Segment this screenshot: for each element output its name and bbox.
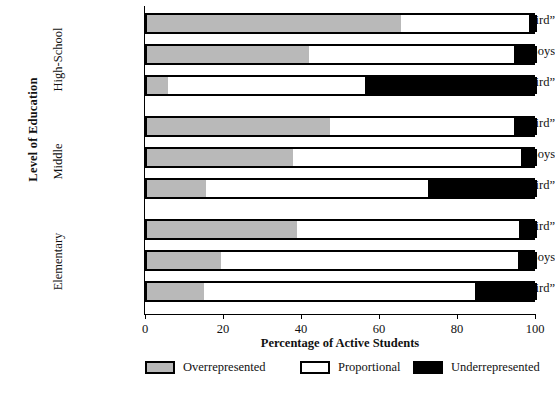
table-row xyxy=(145,116,535,137)
bar-segment-prop xyxy=(309,46,514,63)
bar-segment-over xyxy=(147,283,204,300)
x-tick-100 xyxy=(535,314,536,319)
legend-swatch-proportional-icon xyxy=(300,361,330,374)
bar-segment-under xyxy=(514,46,537,63)
x-tick-80 xyxy=(457,314,458,319)
bar-segment-over xyxy=(147,46,309,63)
bar-segment-over xyxy=(147,77,168,94)
y-axis-title: Level of Education xyxy=(26,35,41,225)
plot-area: 0 20 40 60 80 100 xyxy=(145,6,535,314)
table-row xyxy=(145,281,535,302)
bar-segment-over xyxy=(147,180,206,197)
bar-segment-prop xyxy=(168,77,365,94)
bar-segment-over xyxy=(147,149,293,166)
legend-swatch-overrepresented-icon xyxy=(145,361,175,374)
bar-segment-prop xyxy=(330,118,513,135)
group-label-elementary: Elementary xyxy=(51,214,66,309)
table-row xyxy=(145,44,535,65)
bar-segment-prop xyxy=(401,15,530,32)
legend-label-proportional: Proportional xyxy=(338,360,401,375)
x-tick-label-100: 100 xyxy=(515,322,555,337)
x-tick-label-60: 60 xyxy=(359,322,399,337)
x-tick-label-0: 0 xyxy=(125,322,165,337)
legend-item-overrepresented: Overrepresented xyxy=(145,360,266,375)
bar-segment-prop xyxy=(204,283,475,300)
bar-segment-under xyxy=(428,180,537,197)
bar-segment-prop xyxy=(293,149,521,166)
x-tick-0 xyxy=(145,314,146,319)
x-tick-label-40: 40 xyxy=(281,322,321,337)
bar-segment-over xyxy=(147,221,297,238)
bar-segment-under xyxy=(529,15,537,32)
table-row xyxy=(145,147,535,168)
bar-segment-prop xyxy=(221,252,517,269)
legend: Overrepresented Proportional Underrepres… xyxy=(145,360,545,382)
x-tick-40 xyxy=(301,314,302,319)
table-row xyxy=(145,75,535,96)
group-label-high-school: High-School xyxy=(51,12,66,108)
table-row xyxy=(145,250,535,271)
x-axis-line xyxy=(144,314,535,315)
legend-label-overrepresented: Overrepresented xyxy=(183,360,266,375)
legend-swatch-underrepresented-icon xyxy=(413,361,443,374)
bar-segment-under xyxy=(521,149,537,166)
x-tick-label-20: 20 xyxy=(203,322,243,337)
bar-segment-under xyxy=(475,283,537,300)
bar-segment-over xyxy=(147,252,221,269)
table-row xyxy=(145,13,535,34)
bar-segment-under xyxy=(519,221,537,238)
bar-segment-prop xyxy=(297,221,519,238)
legend-item-proportional: Proportional xyxy=(300,360,401,375)
chart-container: Level of Education High-School Middle El… xyxy=(0,0,555,393)
table-row xyxy=(145,219,535,240)
x-tick-20 xyxy=(223,314,224,319)
bar-segment-under xyxy=(518,252,538,269)
bar-segment-over xyxy=(147,15,401,32)
group-label-middle: Middle xyxy=(51,131,66,193)
x-axis-title: Percentage of Active Students xyxy=(145,336,535,351)
bar-segment-prop xyxy=(206,180,428,197)
legend-label-underrepresented: Underrepresented xyxy=(451,360,540,375)
x-tick-60 xyxy=(379,314,380,319)
legend-item-underrepresented: Underrepresented xyxy=(413,360,540,375)
x-tick-label-80: 80 xyxy=(437,322,477,337)
bar-segment-over xyxy=(147,118,330,135)
bar-segment-under xyxy=(514,118,537,135)
bar-segment-under xyxy=(365,77,537,94)
table-row xyxy=(145,178,535,199)
